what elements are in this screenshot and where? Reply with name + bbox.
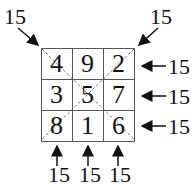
row-sum-1: 15 (168, 56, 190, 78)
column-sum-1: 15 (48, 164, 70, 185)
arrow-diagonal-top-left (18, 28, 38, 45)
cell-r3-c2: 1 (72, 110, 104, 142)
cell-r2-c3: 7 (103, 79, 135, 111)
magic-square-grid: 4 9 2 3 5 7 8 1 6 (41, 48, 134, 141)
diagonal-sum-top-left: 15 (4, 6, 26, 28)
diagonal-sum-top-right: 15 (150, 6, 172, 28)
cell-r1-c3: 2 (103, 48, 135, 80)
column-sum-3: 15 (109, 164, 131, 185)
cell-r3-c3: 6 (103, 110, 135, 142)
row-sum-2: 15 (168, 86, 190, 108)
cell-r2-c1: 3 (41, 79, 73, 111)
row-sum-3: 15 (168, 116, 190, 138)
arrow-diagonal-top-right (139, 28, 158, 45)
cell-r1-c2: 9 (72, 48, 104, 80)
cell-r2-c2: 5 (72, 79, 104, 111)
cell-r3-c1: 8 (41, 110, 73, 142)
cell-r1-c1: 4 (41, 48, 73, 80)
column-sum-2: 15 (79, 164, 101, 185)
